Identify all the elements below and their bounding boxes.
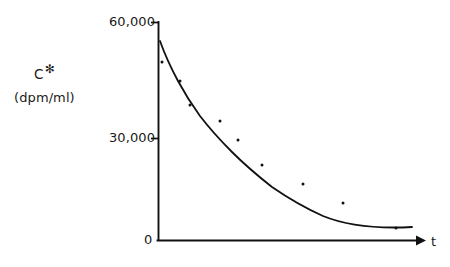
data-point [395,227,398,230]
data-point [219,120,222,123]
x-axis-label: t [431,235,436,248]
data-point [179,80,182,83]
y-tick-label-0: 0 [144,233,152,246]
plot-canvas [0,0,450,267]
fitted-decay-curve [160,41,412,228]
y-tick-label-60000: 60,000 [109,15,155,28]
data-point [237,139,240,142]
data-point [161,61,164,64]
data-point [342,202,345,205]
data-point [261,164,264,167]
y-axis-units-label: (dpm/ml) [14,91,75,104]
data-point [189,104,192,107]
y-axis-symbol-asterisk: ✻ [45,62,55,76]
data-point-group [161,61,398,230]
data-point [302,183,305,186]
y-axis-symbol-label: C✻ [34,63,55,81]
x-axis-arrowhead-icon [416,236,426,246]
y-axis-symbol-letter: C [34,66,44,82]
y-tick-label-30000: 30,000 [109,131,155,144]
chart-figure: C✻ (dpm/ml) 60,000 30,000 0 t [0,0,450,267]
